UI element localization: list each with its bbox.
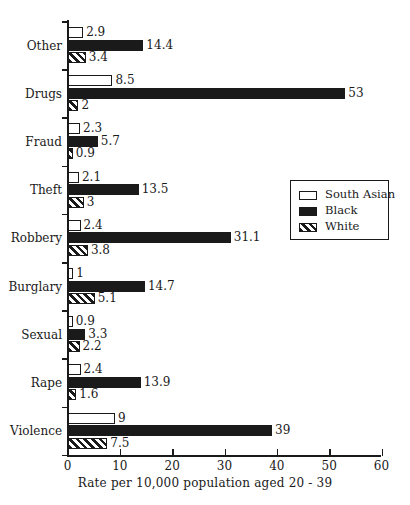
category-label: Fraud <box>25 136 62 148</box>
bar-row: 3.4 <box>68 52 382 63</box>
category-label: Burglary <box>9 281 62 293</box>
bar-group: Fraud2.35.70.9 <box>0 117 410 165</box>
bar-value-label: 5.7 <box>101 135 120 147</box>
bar-group: Sexual0.93.32.2 <box>0 310 410 358</box>
bar-value-label: 1 <box>76 267 84 279</box>
bar-south-asian <box>68 27 83 38</box>
x-axis-tick-label: 30 <box>217 459 232 473</box>
bar-value-label: 2 <box>81 99 89 111</box>
bar-black <box>68 232 231 243</box>
bar-row: 39 <box>68 425 382 436</box>
bar-row: 13.9 <box>68 377 382 388</box>
bar-south-asian <box>68 268 73 279</box>
bar-black <box>68 377 141 388</box>
bar-row: 0.9 <box>68 316 382 327</box>
bar-row: 2.9 <box>68 27 382 38</box>
bar-row: 2.4 <box>68 364 382 375</box>
bar-value-label: 13.5 <box>142 183 169 195</box>
bar-black <box>68 281 145 292</box>
bar-row: 3.8 <box>68 245 382 256</box>
bar-white <box>68 197 84 208</box>
bar-white <box>68 293 95 304</box>
category-label: Drugs <box>25 88 62 100</box>
bar-white <box>68 341 80 352</box>
category-label: Robbery <box>11 232 62 244</box>
bar-value-label: 7.5 <box>110 437 129 449</box>
bar-value-label: 3 <box>87 196 95 208</box>
bar-south-asian <box>68 172 79 183</box>
category-label: Theft <box>30 184 62 196</box>
bar-row: 53 <box>68 88 382 99</box>
legend-label: White <box>325 221 359 233</box>
bar-south-asian <box>68 123 80 134</box>
bar-south-asian <box>68 220 81 231</box>
x-axis-title: Rate per 10,000 population aged 20 - 39 <box>0 476 410 490</box>
legend-swatch-south-asian <box>299 191 317 200</box>
legend-swatch-white <box>299 223 317 232</box>
bar-row: 2.3 <box>68 123 382 134</box>
bar-group: Burglary114.75.1 <box>0 262 410 310</box>
bar-group: Violence9397.5 <box>0 407 410 455</box>
x-axis-tick-label: 10 <box>112 459 127 473</box>
category-label: Other <box>27 40 62 52</box>
bar-value-label: 8.5 <box>115 74 134 86</box>
bar-white <box>68 245 88 256</box>
bar-black <box>68 40 143 51</box>
bar-white <box>68 52 86 63</box>
bar-white <box>68 100 78 111</box>
bar-white <box>68 389 76 400</box>
chart-legend: South AsianBlackWhite <box>290 180 389 240</box>
bar-value-label: 14.4 <box>146 39 173 51</box>
bar-south-asian <box>68 364 81 375</box>
bar-south-asian <box>68 75 112 86</box>
legend-item: White <box>299 220 359 234</box>
y-axis-tick <box>62 455 68 457</box>
bar-value-label: 53 <box>348 87 363 99</box>
bar-value-label: 0.9 <box>76 147 95 159</box>
bar-south-asian <box>68 316 73 327</box>
category-label: Rape <box>31 377 62 389</box>
legend-swatch-black <box>299 207 317 216</box>
bar-value-label: 2.4 <box>84 363 103 375</box>
bar-value-label: 3.4 <box>89 51 108 63</box>
bar-row: 0.9 <box>68 148 382 159</box>
bar-row: 2.2 <box>68 341 382 352</box>
bar-value-label: 1.6 <box>79 388 98 400</box>
bar-value-label: 5.1 <box>98 292 117 304</box>
bar-row: 5.7 <box>68 136 382 147</box>
x-axis-tick-label: 50 <box>322 459 337 473</box>
bar-row: 5.1 <box>68 293 382 304</box>
category-label: Violence <box>10 425 62 437</box>
bar-value-label: 14.7 <box>148 280 175 292</box>
bar-value-label: 0.9 <box>76 315 95 327</box>
bar-value-label: 39 <box>275 424 290 436</box>
bar-value-label: 2.2 <box>83 340 102 352</box>
bar-white <box>68 438 107 449</box>
legend-label: South Asian <box>325 189 395 201</box>
bar-value-label: 9 <box>118 412 126 424</box>
bar-row: 3.3 <box>68 329 382 340</box>
x-axis-tick-label: 0 <box>64 459 72 473</box>
bar-white <box>68 148 73 159</box>
bar-row: 7.5 <box>68 438 382 449</box>
bar-south-asian <box>68 413 115 424</box>
bar-value-label: 3.8 <box>91 244 110 256</box>
bar-black <box>68 329 85 340</box>
bar-row: 1 <box>68 268 382 279</box>
category-label: Sexual <box>21 329 62 341</box>
bar-row: 9 <box>68 413 382 424</box>
bar-group: Rape2.413.91.6 <box>0 358 410 406</box>
bar-value-label: 3.3 <box>88 328 107 340</box>
bar-row: 8.5 <box>68 75 382 86</box>
bar-row: 1.6 <box>68 389 382 400</box>
bar-value-label: 13.9 <box>144 376 171 388</box>
legend-item: South Asian <box>299 188 395 202</box>
bar-row: 2 <box>68 100 382 111</box>
bar-chart: 0102030405060 Other2.914.43.4Drugs8.5532… <box>0 0 410 505</box>
bar-row: 14.4 <box>68 40 382 51</box>
bar-value-label: 2.3 <box>83 122 102 134</box>
bar-group: Other2.914.43.4 <box>0 21 410 69</box>
bar-value-label: 2.9 <box>86 26 105 38</box>
x-axis-tick-label: 60 <box>374 459 389 473</box>
bar-black <box>68 88 345 99</box>
